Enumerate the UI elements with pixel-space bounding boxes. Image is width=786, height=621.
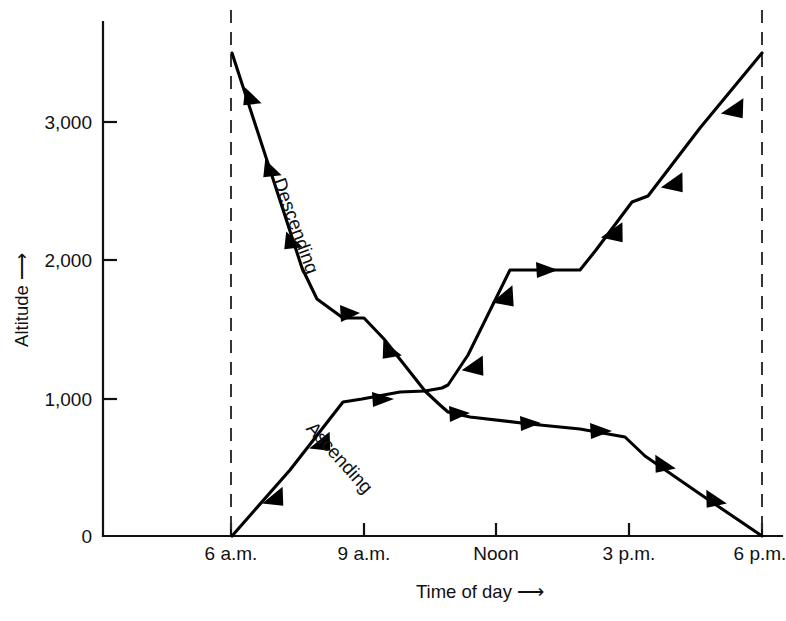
series-label-descending: Descending [269, 175, 323, 276]
x-tick-marks [231, 523, 762, 536]
ascending-arrow-6 [536, 262, 558, 278]
descending-arrow-7 [520, 416, 541, 431]
y-tick-label-1000: 1,000 [44, 389, 92, 410]
x-tick-label-3pm: 3 p.m. [603, 543, 656, 564]
y-tick-marks [103, 122, 117, 399]
descending-arrow-1 [243, 87, 263, 107]
descending-arrow-8 [590, 423, 612, 439]
descending-arrow-6 [449, 406, 470, 422]
x-tick-label-noon: Noon [473, 543, 518, 564]
series-ascending-line [232, 53, 762, 536]
x-tick-label-6pm: 6 p.m. [734, 543, 786, 564]
ascending-arrow-5 [492, 285, 515, 307]
x-tick-labels: 6 a.m. 9 a.m. Noon 3 p.m. 6 p.m. [205, 543, 786, 564]
x-tick-label-9am: 9 a.m. [338, 543, 391, 564]
y-tick-label-3000: 3,000 [44, 112, 92, 133]
y-axis-title: Altitude ⟶ [11, 253, 32, 347]
x-axis-title: Time of day ⟶ [416, 581, 544, 602]
descending-arrow-9 [655, 455, 677, 474]
series-ascending: Ascending [232, 53, 762, 536]
descending-arrow-10 [706, 490, 728, 509]
y-tick-label-0: 0 [81, 526, 92, 547]
altitude-vs-time-chart: 3,000 2,000 1,000 0 6 a.m. 9 a.m. Noon 3… [0, 0, 786, 621]
x-tick-label-6am: 6 a.m. [205, 543, 258, 564]
axis-group [103, 22, 782, 536]
y-tick-labels: 3,000 2,000 1,000 0 [44, 112, 92, 547]
chart-figure: 3,000 2,000 1,000 0 6 a.m. 9 a.m. Noon 3… [0, 0, 786, 621]
y-tick-label-2000: 2,000 [44, 250, 92, 271]
series-label-ascending: Ascending [302, 418, 377, 498]
